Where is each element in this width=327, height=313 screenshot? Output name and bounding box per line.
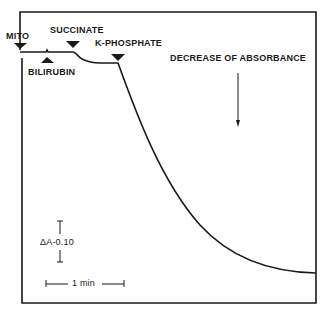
label-succinate: SUCCINATE xyxy=(50,25,104,35)
succinate-marker-icon xyxy=(66,41,80,48)
label-time-scale: 1 min xyxy=(72,278,95,288)
mito-marker-icon xyxy=(14,43,27,49)
label-kphosphate: K-PHOSPHATE xyxy=(95,38,162,48)
label-delta-a: ΔA-0.10 xyxy=(40,237,74,247)
chart-canvas xyxy=(0,0,327,313)
bilirubin-marker-icon xyxy=(41,57,54,63)
label-mito: MITO xyxy=(6,31,29,41)
label-bilirubin: BILIRUBIN xyxy=(28,67,75,77)
kphosphate-marker-icon xyxy=(111,54,125,61)
label-decrease: DECREASE OF ABSORBANCE xyxy=(170,53,306,63)
